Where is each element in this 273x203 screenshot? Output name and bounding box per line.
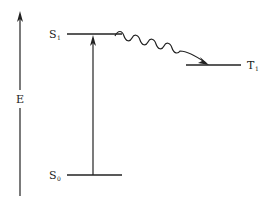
energy-axis: E <box>16 11 24 196</box>
s1-label: S <box>49 28 57 41</box>
level-t1: T 1 <box>186 59 259 72</box>
s0-label: S <box>49 169 57 182</box>
level-s0: S 0 <box>49 169 122 182</box>
s1-subscript: 1 <box>57 34 61 41</box>
t1-subscript: 1 <box>255 65 259 72</box>
s0-subscript: 0 <box>57 175 61 182</box>
absorption-arrow <box>90 35 96 175</box>
t1-label: T <box>247 59 255 72</box>
level-s1: S 1 <box>49 28 122 41</box>
energy-axis-label: E <box>16 93 24 106</box>
intersystem-crossing-wavy-arrow <box>115 32 209 66</box>
energy-diagram: E S 1 S 0 T 1 <box>0 0 273 203</box>
